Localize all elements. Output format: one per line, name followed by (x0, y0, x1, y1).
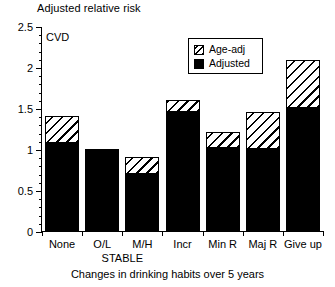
y-axis-tick-label: 1.5 (18, 104, 33, 115)
x-axis-title: Changes in drinking habits over 5 years (0, 268, 335, 280)
legend-swatch-hatch-icon (194, 45, 204, 55)
bar-segment-age-adj[interactable] (206, 132, 240, 148)
bar-group[interactable] (125, 27, 159, 232)
x-axis-category-label-m-h: M/H (132, 238, 152, 250)
y-axis-tick-label: 1 (27, 145, 33, 156)
x-axis-category-label-incr: Incr (173, 238, 191, 250)
x-axis-tick (82, 232, 83, 236)
bar-group[interactable] (286, 27, 320, 232)
y-axis-tick-label: 0 (27, 227, 33, 238)
x-axis-category-label-none: None (49, 238, 75, 250)
x-axis-category-label-o-l: O/L (93, 238, 111, 250)
bar-group[interactable] (45, 27, 79, 232)
bar-segment-age-adj[interactable] (166, 100, 200, 112)
x-axis-tick (122, 232, 123, 236)
bar-segment-adjusted[interactable] (246, 149, 280, 232)
bar-segment-adjusted[interactable] (45, 143, 79, 232)
bar-segment-age-adj[interactable] (45, 116, 79, 144)
legend-label-adjusted: Adjusted (209, 58, 250, 69)
bar-segment-age-adj[interactable] (286, 60, 320, 108)
plot-area: 00.511.522.5 (42, 27, 323, 232)
legend-swatch-solid-icon (194, 59, 204, 69)
y-axis-tick-label: 2 (27, 63, 33, 74)
bar-segment-adjusted[interactable] (206, 148, 240, 232)
bar-segment-adjusted[interactable] (85, 149, 119, 232)
bar-segment-age-adj[interactable] (125, 157, 159, 173)
x-axis-category-label-min-r: Min R (208, 238, 237, 250)
x-axis-tick (42, 232, 43, 236)
x-axis-category-label-give-up: Give up (284, 238, 322, 250)
x-axis-tick (323, 232, 324, 236)
x-axis-category-label-maj-r: Maj R (248, 238, 277, 250)
bar-chart: Adjusted relative risk CVD 00.511.522.5 … (0, 0, 335, 287)
x-axis-tick (203, 232, 204, 236)
y-axis-title: Adjusted relative risk (37, 2, 141, 14)
bar-segment-adjusted[interactable] (286, 108, 320, 232)
legend-item-adjusted: Adjusted (194, 57, 250, 70)
bar-segment-adjusted[interactable] (125, 174, 159, 232)
legend-item-age-adj: Age-adj (194, 43, 245, 56)
bar-group[interactable] (85, 27, 119, 232)
x-axis-tick (162, 232, 163, 236)
x-axis-tick (243, 232, 244, 236)
legend-label-age-adj: Age-adj (209, 44, 245, 55)
bar-segment-age-adj[interactable] (246, 112, 280, 149)
legend: Age-adj Adjusted (188, 38, 263, 74)
y-axis-tick-label: 2.5 (18, 22, 33, 33)
group-label-stable: STABLE (102, 252, 143, 264)
bar-segment-adjusted[interactable] (166, 112, 200, 232)
y-axis-tick-label: 0.5 (18, 186, 33, 197)
x-axis-tick (283, 232, 284, 236)
